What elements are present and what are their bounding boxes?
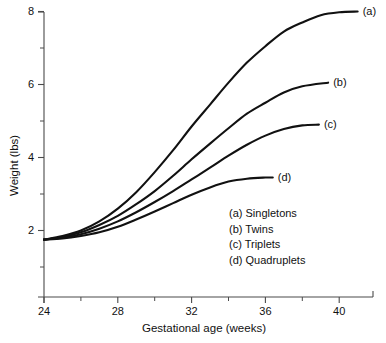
legend-item: (c) Triplets: [229, 237, 305, 253]
chart-legend: (a) Singletons (b) Twins (c) Triplets (d…: [229, 206, 305, 268]
y-axis-ticks: [38, 12, 44, 268]
chart-plot-area: [0, 0, 386, 343]
y-axis-tick-label: 2: [12, 224, 34, 236]
x-axis-tick-label: 36: [250, 305, 280, 317]
legend-item: (d) Quadruplets: [229, 253, 305, 269]
x-axis-tick-label: 28: [103, 305, 133, 317]
y-axis-tick-label: 8: [12, 5, 34, 17]
x-axis-ticks: [44, 297, 339, 303]
y-axis-title: Weight (lbs): [8, 135, 20, 196]
x-axis-tick-label: 32: [177, 305, 207, 317]
curve-end-label-d: (d): [278, 171, 291, 183]
legend-item: (b) Twins: [229, 222, 305, 238]
legend-item: (a) Singletons: [229, 206, 305, 222]
y-axis-tick-label: 6: [12, 78, 34, 90]
x-axis-tick-label: 24: [29, 305, 59, 317]
chart-figure: 2468 2428323640 (a)(b)(c)(d) Weight (lbs…: [0, 0, 386, 343]
x-axis-tick-label: 40: [324, 305, 354, 317]
curve-end-label-c: (c): [324, 118, 337, 130]
x-axis-title: Gestational age (weeks): [86, 322, 322, 334]
curve-end-label-a: (a): [363, 5, 376, 17]
curve-end-label-b: (b): [333, 76, 346, 88]
data-curves: [44, 12, 358, 240]
axes: [38, 12, 373, 303]
